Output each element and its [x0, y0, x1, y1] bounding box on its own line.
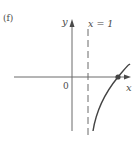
- x-axis-label: x: [126, 83, 132, 93]
- asymptote-label: x = 1: [88, 19, 113, 29]
- graph-figure: (f) y x = 1 0 x: [0, 0, 136, 145]
- y-axis-arrow-icon: [70, 19, 75, 27]
- y-axis-label: y: [62, 17, 68, 27]
- x-axis-arrow-icon: [124, 75, 131, 80]
- x-intercept-point: [115, 74, 120, 79]
- function-curve: [93, 64, 130, 131]
- graph-canvas: [0, 0, 136, 145]
- origin-label: 0: [63, 82, 69, 91]
- panel-label: (f): [3, 14, 13, 23]
